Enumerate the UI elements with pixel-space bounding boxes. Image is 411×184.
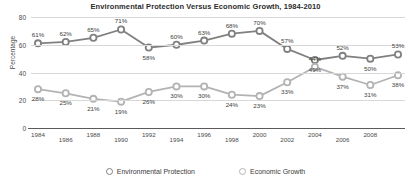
x-axis-tick-label: 1984 — [31, 131, 45, 138]
data-label: 71% — [115, 17, 127, 24]
data-point[interactable] — [395, 51, 401, 57]
y-axis-tick-label: 20 — [19, 97, 26, 104]
data-label: 52% — [336, 43, 348, 50]
data-point[interactable] — [367, 56, 373, 62]
x-axis-tick-label: 1990 — [114, 136, 128, 143]
x-axis-tick-label: 1986 — [59, 136, 73, 143]
y-axis-tick-label: 0 — [22, 125, 26, 132]
data-label: 26% — [143, 97, 155, 104]
data-point[interactable] — [229, 92, 235, 98]
data-point[interactable] — [367, 82, 373, 88]
data-label: 68% — [226, 21, 238, 28]
legend-item[interactable]: Environmental Protection — [106, 168, 195, 175]
data-label: 31% — [364, 90, 376, 97]
x-axis-tick-label: 1988 — [86, 131, 100, 138]
data-point[interactable] — [35, 86, 41, 92]
x-axis-tick-label: 1994 — [170, 136, 184, 143]
gridline — [31, 45, 405, 46]
data-label: 65% — [87, 25, 99, 32]
x-axis-tick-label: 1998 — [225, 136, 239, 143]
data-point[interactable] — [173, 83, 179, 89]
data-label: 21% — [87, 104, 99, 111]
data-point[interactable] — [90, 35, 96, 41]
legend-label: Economic Growth — [250, 168, 305, 175]
data-label: 30% — [198, 92, 210, 99]
x-axis-line — [28, 128, 405, 129]
data-point[interactable] — [340, 53, 346, 59]
data-point[interactable] — [256, 28, 262, 34]
data-point[interactable] — [201, 37, 207, 43]
data-point[interactable] — [340, 74, 346, 80]
data-label: 57% — [281, 36, 293, 43]
x-axis-tick-label: 2002 — [280, 136, 294, 143]
chart-container: Environmental Protection Versus Economic… — [0, 0, 411, 184]
data-point[interactable] — [146, 89, 152, 95]
data-point[interactable] — [284, 79, 290, 85]
gridline — [31, 17, 405, 18]
x-axis-tick-label: 2000 — [253, 131, 267, 138]
data-point[interactable] — [201, 83, 207, 89]
legend-marker-icon — [106, 168, 113, 175]
data-label: 60% — [170, 32, 182, 39]
data-label: 53% — [392, 42, 404, 49]
x-axis-tick-label: 1992 — [142, 131, 156, 138]
y-axis-tick-label: 40 — [19, 69, 26, 76]
data-label: 23% — [253, 102, 265, 109]
data-label: 44% — [309, 54, 321, 61]
data-label: 63% — [198, 28, 210, 35]
x-axis-tick-label: 2004 — [308, 131, 322, 138]
x-axis-tick-label: 1996 — [197, 131, 211, 138]
data-label: 25% — [59, 99, 71, 106]
data-label: 62% — [59, 29, 71, 36]
y-axis-tick-label: 60 — [19, 41, 26, 48]
data-point[interactable] — [229, 31, 235, 37]
x-axis-tick-label: 2006 — [336, 136, 350, 143]
y-axis-ticks: 020406080 — [0, 0, 26, 128]
data-label: 70% — [253, 18, 265, 25]
data-label: 30% — [170, 92, 182, 99]
chart-legend: Environmental ProtectionEconomic Growth — [0, 163, 411, 179]
data-label: 24% — [226, 100, 238, 107]
x-axis-labels: 1984198619881990199219941996199820002002… — [31, 131, 405, 145]
data-label: 19% — [115, 107, 127, 114]
chart-title: Environmental Protection Versus Economic… — [0, 2, 411, 11]
data-point[interactable] — [118, 26, 124, 32]
data-label: 49% — [309, 66, 321, 73]
gridline — [31, 100, 405, 101]
data-label: 28% — [32, 95, 44, 102]
data-point[interactable] — [256, 93, 262, 99]
gridline — [31, 73, 405, 74]
data-point[interactable] — [284, 46, 290, 52]
data-point[interactable] — [63, 90, 69, 96]
data-label: 38% — [392, 81, 404, 88]
data-label: 61% — [32, 31, 44, 38]
y-axis-tick-label: 80 — [19, 14, 26, 21]
x-axis-tick-label: 2008 — [363, 131, 377, 138]
data-label: 37% — [336, 82, 348, 89]
legend-marker-icon — [239, 168, 246, 175]
data-label: 50% — [364, 64, 376, 71]
data-label: 33% — [281, 88, 293, 95]
legend-item[interactable]: Economic Growth — [239, 168, 305, 175]
data-label: 58% — [143, 53, 155, 60]
legend-label: Environmental Protection — [117, 168, 195, 175]
